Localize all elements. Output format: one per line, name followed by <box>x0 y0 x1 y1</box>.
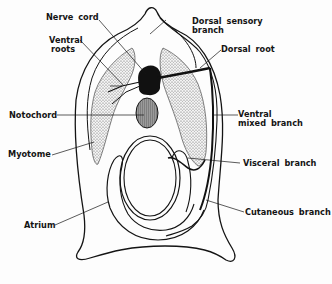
label-notochord: Notochord <box>9 111 57 121</box>
label-atrium: Atrium <box>24 221 55 231</box>
label-myotome: Myotome <box>8 150 51 160</box>
nerve-cord <box>138 66 161 96</box>
label-nerve-cord: Nerve cord <box>46 13 99 23</box>
notochord <box>136 98 158 128</box>
myotome-right <box>160 48 207 166</box>
label-visceral-branch: Visceral branch <box>243 159 316 169</box>
anatomy-diagram: Nerve cord Ventral roots Dorsal sensory … <box>0 0 332 284</box>
label-dorsal-root: Dorsal root <box>221 45 275 55</box>
label-ventral-mixed-line2: mixed branch <box>238 119 303 129</box>
label-cutaneous-branch: Cutaneous branch <box>245 208 331 218</box>
label-dorsal-sensory-line2: branch <box>192 26 224 36</box>
label-ventral-roots-line2: roots <box>51 45 75 55</box>
